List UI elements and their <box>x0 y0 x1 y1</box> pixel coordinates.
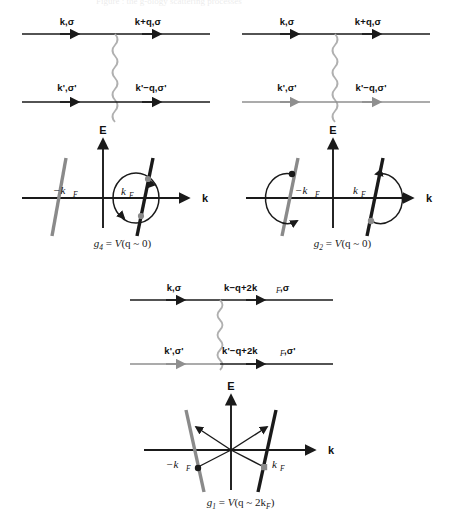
g1-left-band <box>186 410 204 492</box>
g2-right-fermi-sub: F <box>360 190 366 199</box>
g1-left-fermi-label: −k <box>166 458 179 470</box>
g4-left-fermi-label: −k <box>53 184 66 196</box>
g4-dot-upper <box>145 176 151 182</box>
g2-left-fermi-label: −k <box>295 184 308 196</box>
panel-g2: k,σ k+q,σ k',σ' k'−q,σ' E k −k F k F g2 … <box>240 10 445 252</box>
g1-line-to-lower-right-dot <box>231 450 264 467</box>
g1-right-fermi-label: k <box>272 458 278 470</box>
g2-top-out-label: k+q,σ <box>355 16 382 27</box>
g1-arrow-to-upper-left <box>196 427 231 450</box>
g1-y-axis-label: E <box>227 380 234 392</box>
dispersion-plot-g1: E k −k F k F <box>128 374 353 502</box>
g1-right-band <box>258 410 276 492</box>
caption-g4-arg: (q ~ 0) <box>121 237 151 249</box>
g2-x-axis-label: k <box>426 192 433 204</box>
caption-g2: g2 = V(q ~ 0) <box>240 237 445 252</box>
caption-g1-arg-tail: ) <box>271 496 275 508</box>
g4-y-axis-label: E <box>99 124 106 136</box>
g2-left-dot <box>289 171 295 177</box>
g4-right-fermi-sub: F <box>128 191 134 200</box>
g2-right-dot <box>368 218 374 224</box>
g1-top-out-tail: ,σ <box>280 282 290 293</box>
g4-x-axis-label: k <box>202 192 209 204</box>
g2-bottom-in-label: k',σ' <box>277 82 296 93</box>
g2-right-fermi-label: k <box>353 184 359 196</box>
g4-bottom-out-label: k'−q,σ' <box>136 82 167 93</box>
g1-bottom-out-tail: ,σ' <box>284 345 296 356</box>
g4-top-in-label: k,σ <box>60 16 75 27</box>
g4-top-out-label: k+q,σ <box>135 16 162 27</box>
g1-interaction-wavy-line <box>218 300 223 370</box>
g4-left-band <box>52 158 66 236</box>
g1-x-axis-label: k <box>328 444 335 456</box>
g1-bottom-out-label: k'−q+2k <box>222 345 258 356</box>
panel-g1: k,σ k−q+2k F ,σ k',σ' k'−q+2k F ,σ' E k <box>128 278 353 511</box>
g2-bottom-out-label: k'−q,σ' <box>356 82 387 93</box>
faint-header-strip: Figure : the g-ology scattering processe… <box>0 0 454 7</box>
faint-header-text: Figure : the g-ology scattering processe… <box>96 0 242 6</box>
g2-top-in-label: k,σ <box>280 16 295 27</box>
feynman-diagram-g2: k,σ k+q,σ k',σ' k'−q,σ' <box>240 10 445 110</box>
dispersion-plot-g4: E k −k F k F <box>20 116 225 241</box>
feynman-diagram-g4: k,σ k+q,σ k',σ' k'−q,σ' <box>20 10 225 110</box>
g1-left-dot <box>195 465 201 471</box>
caption-g4: g4 = V(q ~ 0) <box>20 237 225 252</box>
g2-interaction-wavy-line <box>333 34 338 122</box>
g1-top-out-label: k−q+2k <box>224 282 258 293</box>
g4-left-fermi-sub: F <box>72 190 78 199</box>
caption-g2-arg: (q ~ 0) <box>341 237 371 249</box>
feynman-diagram-g1: k,σ k−q+2k F ,σ k',σ' k'−q+2k F ,σ' <box>128 278 353 370</box>
g1-left-fermi-sub: F <box>185 464 191 473</box>
panel-g4: k,σ k+q,σ k',σ' k'−q,σ' E k −k F <box>20 10 225 252</box>
g4-bottom-in-label: k',σ' <box>57 82 76 93</box>
caption-g4-eq: = <box>103 237 115 249</box>
g2-left-band <box>282 158 298 236</box>
g1-arrow-to-upper-right <box>231 427 267 450</box>
g1-line-to-lower-left-dot <box>198 450 231 467</box>
g4-dot-lower <box>138 213 144 219</box>
g4-right-fermi-label: k <box>121 185 127 197</box>
g4-right-band <box>137 158 153 236</box>
g1-right-dot <box>261 464 267 470</box>
caption-g2-eq: = <box>323 237 335 249</box>
caption-g1-eq: = <box>216 496 228 508</box>
caption-g1: g1 = V(q ~ 2kF) <box>128 496 353 511</box>
g1-bottom-in-label: k',σ' <box>164 345 183 356</box>
g2-y-axis-label: E <box>329 124 336 136</box>
dispersion-plot-g2: E k −k F k F <box>240 116 445 241</box>
g1-right-fermi-sub: F <box>279 464 285 473</box>
caption-g1-arg: (q ~ 2k <box>234 496 266 508</box>
g2-left-fermi-sub: F <box>314 190 320 199</box>
g4-interaction-wavy-line <box>113 34 118 122</box>
g1-top-in-label: k,σ <box>167 282 182 293</box>
